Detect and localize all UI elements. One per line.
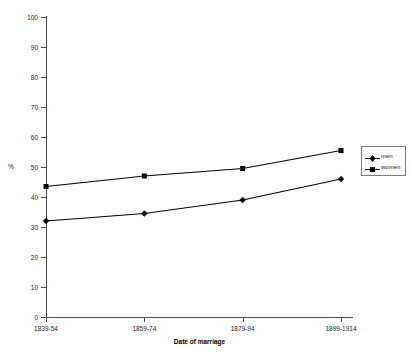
legend-label-women: women: [381, 163, 400, 171]
series-line-men: [46, 179, 341, 221]
y-tick-label: 40: [10, 194, 38, 201]
y-tick-label: 80: [10, 74, 38, 81]
y-tick-mark: [41, 227, 46, 228]
y-tick-mark: [41, 107, 46, 108]
y-tick-label: 30: [10, 224, 38, 231]
x-tick-mark: [243, 317, 244, 322]
x-tick-mark: [144, 317, 145, 322]
y-tick-label: 100: [10, 14, 38, 21]
x-tick-mark: [341, 317, 342, 322]
y-tick-mark: [41, 47, 46, 48]
y-tick-label: 90: [10, 44, 38, 51]
y-tick-label: 50: [10, 164, 38, 171]
square-marker-icon: [364, 161, 381, 172]
x-tick-label: 1859-74: [109, 325, 179, 333]
square-marker-icon: [339, 148, 344, 153]
y-tick-label: 70: [10, 104, 38, 111]
y-tick-label: 0: [10, 314, 38, 321]
y-tick-mark: [41, 167, 46, 168]
x-axis-line: [46, 317, 353, 318]
y-tick-label: 20: [10, 254, 38, 261]
y-tick-mark: [41, 287, 46, 288]
y-tick-mark: [41, 17, 46, 18]
square-marker-icon: [240, 166, 245, 171]
x-tick-label: 1899-1914: [306, 325, 376, 333]
y-tick-mark: [41, 197, 46, 198]
y-tick-label: 10: [10, 284, 38, 291]
series-line-women: [46, 151, 341, 187]
diamond-marker-icon: [141, 210, 147, 216]
legend-item-men: men: [364, 150, 403, 161]
series-layer: [0, 0, 411, 357]
x-axis-title: Date of marriage: [46, 337, 353, 346]
y-axis-line: [46, 16, 47, 318]
y-tick-mark: [41, 137, 46, 138]
square-marker-icon: [142, 174, 147, 179]
diamond-marker-icon: [364, 150, 381, 161]
diamond-marker-icon: [338, 176, 344, 182]
x-tick-mark: [46, 317, 47, 322]
legend-label-men: men: [381, 152, 393, 160]
y-tick-mark: [41, 77, 46, 78]
x-tick-label: 1839-54: [11, 325, 81, 333]
chart-figure: % 0102030405060708090100 1839-541859-741…: [0, 0, 411, 357]
diamond-marker-icon: [239, 197, 245, 203]
y-tick-mark: [41, 257, 46, 258]
legend-item-women: women: [364, 161, 403, 172]
x-tick-label: 1879-94: [208, 325, 278, 333]
chart-legend: men women: [361, 146, 406, 176]
y-tick-label: 60: [10, 134, 38, 141]
